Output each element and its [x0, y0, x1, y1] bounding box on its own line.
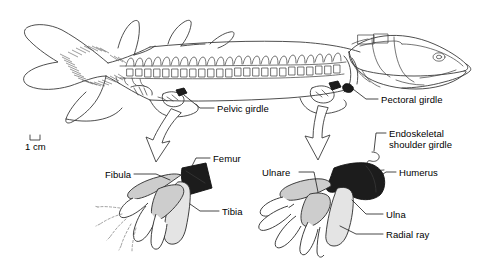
label-pectoral-girdle: Pectoral girdle	[381, 94, 442, 105]
label-fibula: Fibula	[105, 169, 131, 180]
centra	[127, 65, 340, 77]
label-radial-ray: Radial ray	[386, 229, 429, 240]
anal-fin	[131, 86, 152, 96]
scale-bar	[30, 135, 40, 140]
skull	[349, 34, 471, 89]
anatomical-figure: .ol { fill:none; stroke:#3b3b3b; stroke-…	[0, 0, 481, 261]
fish-skeleton	[24, 20, 471, 140]
vertebral-column	[116, 53, 346, 86]
label-ulnare: Ulnare	[262, 167, 290, 178]
caudal-fin-rays	[60, 46, 126, 86]
label-humerus: Humerus	[399, 167, 438, 178]
label-ulna: Ulna	[386, 209, 406, 220]
label-endoskeletal-shoulder-girdle: Endoskeletal shoulder girdle	[389, 128, 452, 150]
scale-bar-label: 1 cm	[25, 141, 46, 152]
label-pelvic-girdle: Pelvic girdle	[217, 103, 269, 114]
arrow-pelvic-to-detail	[146, 109, 181, 162]
label-tibia: Tibia	[222, 206, 243, 217]
dorsal-fins	[118, 20, 234, 55]
bone-ulna	[326, 187, 353, 246]
label-femur: Femur	[213, 153, 241, 164]
arrow-pectoral-to-detail	[305, 106, 330, 160]
neural-arches	[126, 53, 341, 66]
caudal-fin	[24, 25, 122, 123]
